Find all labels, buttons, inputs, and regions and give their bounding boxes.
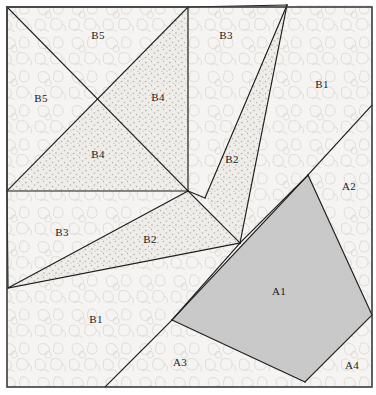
figure-canvas: A1A2A3A4B1B1B2B2B3B3B4B4B5B5 [0, 0, 376, 395]
label-b3: B3 [219, 29, 233, 41]
label-a2: A2 [342, 180, 356, 192]
label-b5: B5 [91, 29, 105, 41]
label-b2b: B2 [143, 233, 157, 245]
dissection-figure: A1A2A3A4B1B1B2B2B3B3B4B4B5B5 [0, 0, 376, 395]
label-b4: B4 [151, 91, 165, 103]
label-a1: A1 [272, 285, 286, 297]
label-b1: B1 [315, 78, 329, 90]
label-b1b: B1 [89, 313, 103, 325]
label-b3b: B3 [55, 226, 69, 238]
label-b5b: B5 [34, 92, 48, 104]
label-a4: A4 [345, 359, 359, 371]
label-b2: B2 [225, 153, 239, 165]
label-a3: A3 [173, 356, 187, 368]
label-b4b: B4 [91, 148, 105, 160]
